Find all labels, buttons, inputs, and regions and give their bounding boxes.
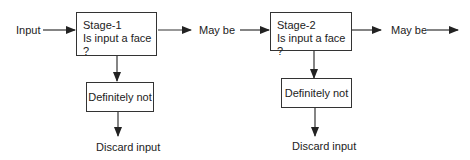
stage2-discard-label: Discard input bbox=[292, 140, 356, 153]
stage2-box: Stage-2 Is input a face ? bbox=[270, 12, 352, 51]
stage1-question: Is input a face ? bbox=[83, 32, 156, 58]
stage1-reject-label: Definitely not bbox=[88, 91, 152, 104]
stage2-question: Is input a face ? bbox=[277, 32, 351, 58]
stage1-title: Stage-1 bbox=[83, 19, 156, 32]
stage1-discard-label: Discard input bbox=[96, 141, 160, 154]
stage2-title: Stage-2 bbox=[277, 19, 351, 32]
input-label: Input bbox=[16, 24, 40, 37]
stage1-pass-label: May be bbox=[199, 24, 235, 37]
stage1-reject-box: Definitely not bbox=[86, 82, 154, 112]
stage1-box: Stage-1 Is input a face ? bbox=[76, 12, 157, 56]
stage2-pass-label: May be bbox=[391, 24, 427, 37]
stage2-reject-box: Definitely not bbox=[281, 78, 352, 108]
stage2-reject-label: Definitely not bbox=[285, 87, 349, 100]
